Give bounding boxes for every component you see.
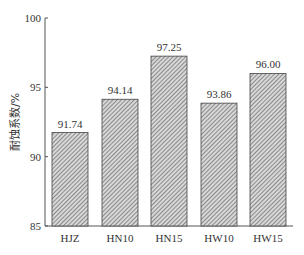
y-axis-label: 耐蚀系数/%	[8, 93, 22, 151]
x-category-label: HJZ	[61, 232, 80, 244]
value-label: 94.14	[108, 84, 133, 96]
bars: 91.74HJZ94.14HN1097.25HN1593.86HW1096.00…	[52, 41, 286, 244]
value-label: 91.74	[58, 118, 83, 130]
bar-hn10	[102, 99, 138, 226]
y-ticks: 859095100	[25, 12, 49, 232]
bar-chart: 859095100 91.74HJZ94.14HN1097.25HN1593.8…	[0, 0, 304, 255]
x-category-label: HN15	[156, 232, 183, 244]
bar-hw10	[201, 103, 237, 226]
y-tick-label: 100	[25, 12, 42, 24]
y-tick-label: 90	[30, 151, 42, 163]
bar-hjz	[52, 133, 88, 226]
x-category-label: HN10	[107, 232, 134, 244]
bar-hw15	[250, 73, 286, 226]
value-label: 93.86	[207, 88, 232, 100]
value-label: 96.00	[256, 58, 281, 70]
value-label: 97.25	[157, 41, 182, 53]
x-category-label: HW10	[204, 232, 234, 244]
x-category-label: HW15	[253, 232, 283, 244]
bar-hn15	[151, 56, 187, 226]
y-tick-label: 85	[30, 220, 42, 232]
y-tick-label: 95	[30, 81, 42, 93]
